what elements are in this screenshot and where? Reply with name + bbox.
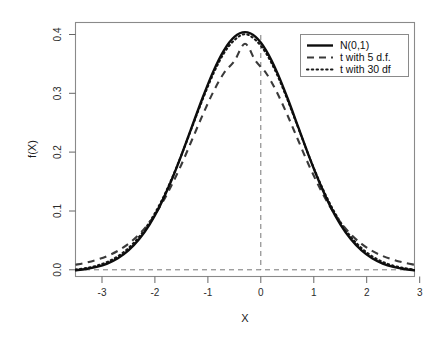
x-axis-title: X	[241, 312, 249, 324]
x-tick-label-1: -2	[150, 287, 159, 298]
y-tick-label-1: 0.1	[52, 204, 63, 218]
x-tick-label-0: -3	[98, 287, 107, 298]
y-tick-label-3: 0.3	[52, 86, 63, 100]
y-tick-label-4: 0.4	[52, 27, 63, 41]
legend: N(0,1) t with 5 d.f. t with 30 df	[301, 35, 409, 77]
legend-label-t30: t with 30 df	[340, 63, 391, 75]
x-tick-label-6: 3	[417, 287, 423, 298]
x-tick-label-3: 0	[258, 287, 264, 298]
x-tick-label-4: 1	[311, 287, 317, 298]
y-tick-label-0: 0.0	[52, 262, 63, 276]
x-tick-label-2: -1	[203, 287, 212, 298]
chart-svg: 0.0 0.1 0.2 0.3 0.4 f(X) -3 -2 -1 0 1 2 …	[0, 0, 445, 337]
legend-label-t5: t with 5 d.f.	[340, 51, 391, 63]
legend-label-normal: N(0,1)	[340, 39, 369, 51]
y-tick-label-2: 0.2	[52, 145, 63, 159]
density-comparison-chart: 0.0 0.1 0.2 0.3 0.4 f(X) -3 -2 -1 0 1 2 …	[0, 0, 445, 337]
y-axis-title: f(X)	[26, 140, 38, 158]
x-tick-label-5: 2	[364, 287, 370, 298]
